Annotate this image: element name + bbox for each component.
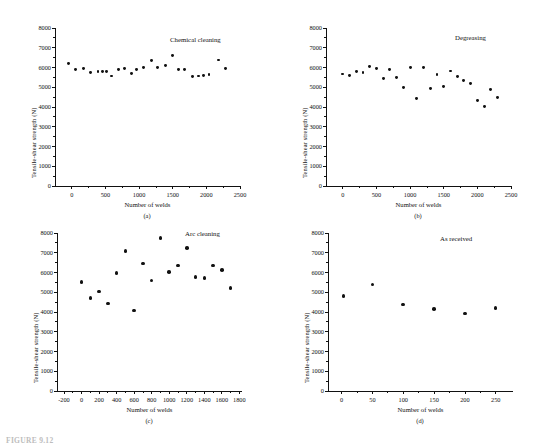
data-point-d-0 [342, 294, 346, 298]
figure-scatter-grid: FIGURE 9.12 0100020003000400050006000700… [0, 0, 542, 446]
panel-d: 0100020003000400050006000700080000501001… [0, 0, 542, 446]
x-minor-tick-d-3 [449, 391, 450, 393]
data-point-d-4 [463, 312, 467, 316]
y-tick-label-d-8: 8000 [294, 229, 324, 236]
data-point-d-5 [494, 306, 498, 310]
x-minor-tick-d-0 [357, 391, 358, 393]
y-tick-d-1 [325, 371, 328, 372]
x-minor-tick-d-2 [418, 391, 419, 393]
y-minor-tick-d-1 [326, 361, 328, 362]
y-minor-tick-d-4 [326, 302, 328, 303]
x-tick-label-d-5: 250 [481, 396, 511, 403]
y-tick-d-0 [325, 391, 328, 392]
data-point-d-1 [371, 283, 375, 287]
data-point-d-2 [401, 303, 405, 307]
panel-label-d: (d) [408, 417, 432, 424]
y-minor-tick-d-3 [326, 321, 328, 322]
x-axis-label-d: Number of welds [328, 406, 513, 413]
x-tick-d-4 [465, 391, 466, 394]
y-tick-d-5 [325, 292, 328, 293]
y-minor-tick-d-7 [326, 242, 328, 243]
x-tick-d-3 [434, 391, 435, 394]
series-title-d: As received [440, 235, 472, 242]
y-minor-tick-d-2 [326, 341, 328, 342]
data-point-d-3 [432, 307, 436, 311]
y-tick-label-d-0: 0 [294, 387, 324, 394]
x-tick-label-d-0: 0 [327, 396, 357, 403]
y-tick-d-3 [325, 331, 328, 332]
x-tick-d-0 [341, 391, 342, 394]
y-minor-tick-d-6 [326, 262, 328, 263]
y-tick-d-6 [325, 272, 328, 273]
y-tick-d-2 [325, 351, 328, 352]
x-tick-d-5 [495, 391, 496, 394]
y-axis-label-d: Tensile-shear strength (N) [303, 247, 310, 383]
y-minor-tick-d-5 [326, 282, 328, 283]
x-tick-d-2 [403, 391, 404, 394]
x-tick-label-d-4: 200 [450, 396, 480, 403]
x-minor-tick-d-1 [387, 391, 388, 393]
y-minor-tick-d-0 [326, 381, 328, 382]
x-tick-d-1 [372, 391, 373, 394]
x-tick-label-d-1: 50 [357, 396, 387, 403]
x-tick-label-d-2: 100 [388, 396, 418, 403]
y-tick-d-7 [325, 252, 328, 253]
x-minor-tick-d-4 [480, 391, 481, 393]
y-tick-d-8 [325, 233, 328, 234]
x-tick-label-d-3: 150 [419, 396, 449, 403]
y-tick-d-4 [325, 312, 328, 313]
